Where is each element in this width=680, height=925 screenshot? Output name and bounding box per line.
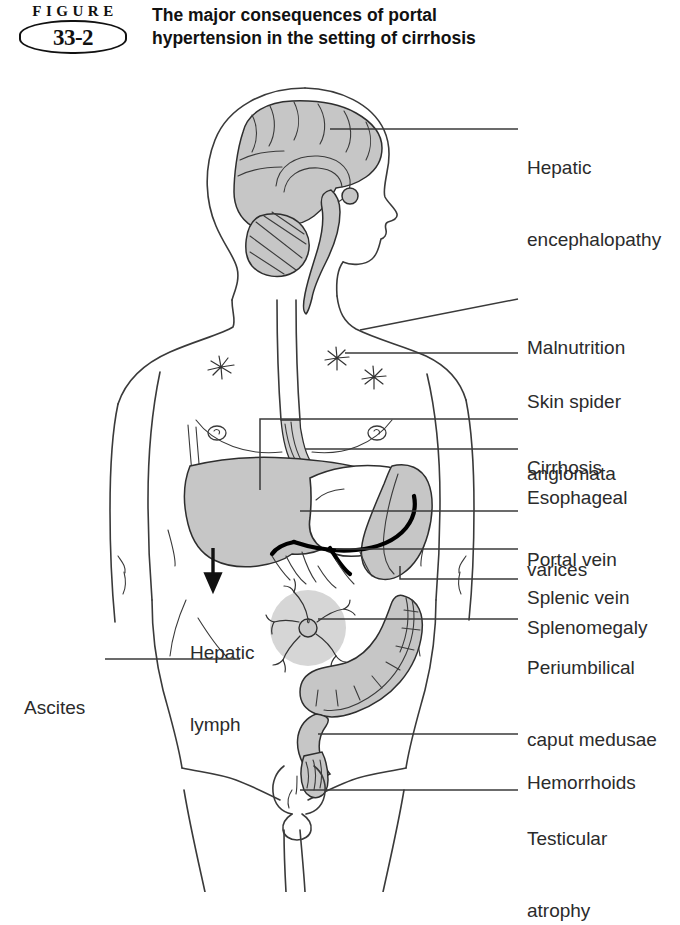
esophagus	[277, 300, 318, 478]
mesenteric-vessels	[272, 552, 372, 588]
label-line-1: Hepatic	[527, 156, 661, 180]
rectum-hemorrhoids	[301, 752, 328, 798]
umbilicus-caput-medusae	[266, 579, 355, 672]
label-line-2: encephalopathy	[527, 228, 661, 252]
label-line-1: Hepatic	[190, 641, 254, 665]
label-line-2: atrophy	[527, 899, 607, 923]
label-ascites: Ascites	[24, 648, 85, 768]
brain	[234, 101, 382, 314]
label-line-1: Periumbilical	[527, 656, 657, 680]
label-line-2: lymph	[190, 713, 254, 737]
label-hepatic-encephalopathy: Hepatic encephalopathy	[527, 108, 661, 300]
label-line-1: Testicular	[527, 827, 607, 851]
label-line-1: Ascites	[24, 696, 85, 720]
label-hepatic-lymph: Hepatic lymph	[190, 593, 254, 785]
label-testicular-atrophy: Testicular atrophy	[527, 779, 607, 925]
